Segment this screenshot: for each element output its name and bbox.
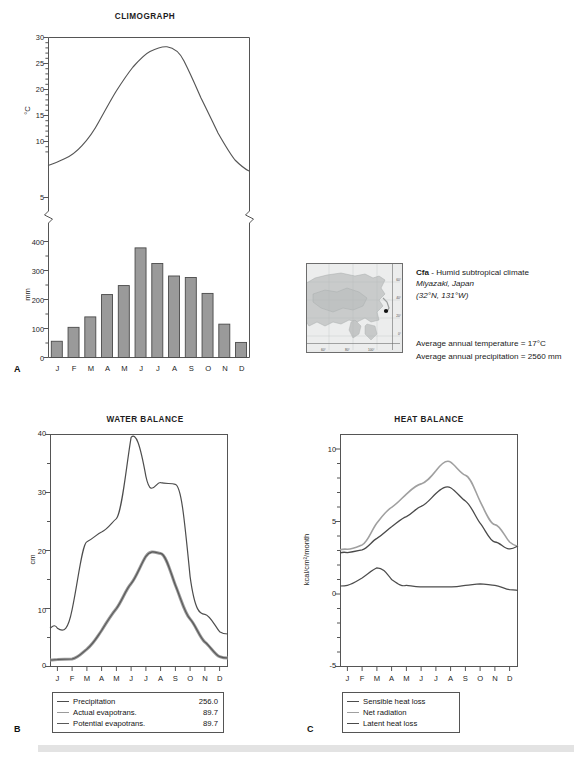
month-label-c-j1: J [340,674,355,683]
month-label-b-a1: A [94,674,109,683]
wb-tick-10: 10 [24,606,46,615]
map-lat-label-60: 60° [396,278,401,282]
sensible-heat-loss-curve [340,568,518,591]
bar-may [118,286,129,358]
month-label-b-o: O [183,674,198,683]
water-balance-plot [50,434,228,672]
bar-dec [236,342,247,357]
panel-heat-balance: HEAT BALANCE C kcal/cm²/month 10 5 0 -5 [290,400,584,757]
wb-tick-0: 0 [24,661,46,670]
panel-letter-a: A [14,364,21,374]
panel-water-balance: WATER BALANCE B cm 40 30 20 10 0 [0,400,300,757]
legend-row-net-radiation: Net radiation [347,707,454,718]
month-label-c-n: N [488,674,503,683]
climate-code: Cfa [416,268,429,277]
month-label-a-s: S [183,364,200,373]
month-label-c-a1: A [384,674,399,683]
map-lat-label-40: 40° [396,296,401,300]
map-lon-label-60: 60° [321,348,326,352]
bar-jul [152,264,163,358]
legend-row-potential-evapotrans: Potential evapotrans. 89.7 [57,718,218,729]
legend-value-precipitation: 256.0 [199,697,218,706]
month-label-b-a2: A [153,674,168,683]
climate-averages: Average annual temperature = 17°C Averag… [416,337,561,363]
month-label-a-j2: J [133,364,150,373]
climate-coordinates: (32°N, 131°W) [416,290,529,301]
month-label-c-m1: M [370,674,385,683]
month-label-b-j1: J [50,674,65,683]
climate-name: - Humid subtropical climate [431,268,529,277]
precipitation-curve [50,436,228,634]
legend-label-precipitation: Precipitation [73,697,199,706]
month-label-c-j3: J [429,674,444,683]
legend-value-potential-evapotrans: 89.7 [203,719,218,728]
precip-tick-200: 200 [20,296,44,305]
hb-tick-5: 5 [314,517,336,526]
wb-tick-40: 40 [24,429,46,438]
location-dot [384,309,388,313]
heat-balance-legend: Sensible heat loss Net radiation Latent … [342,692,460,733]
month-label-c-j2: J [414,674,429,683]
month-label-b-j3: J [139,674,154,683]
bar-jun [135,248,146,358]
hb-tick-10: 10 [314,445,336,454]
month-label-b-j2: J [124,674,139,683]
legend-row-precipitation: Precipitation 256.0 [57,696,218,707]
precip-tick-300: 300 [20,267,44,276]
month-label-b-m2: M [109,674,124,683]
legend-swatch-potential-evapotrans [57,723,69,724]
bar-feb [68,327,79,357]
month-label-b-s: S [168,674,183,683]
legend-swatch-net-radiation [347,712,359,713]
latent-heat-loss-curve [340,487,518,553]
footer-bar [38,745,574,752]
heat-balance-title: HEAT BALANCE [290,415,568,424]
temp-tick-10: 10 [22,137,44,146]
actual-evapotranspiration-curve [50,552,228,660]
bar-jan [51,341,62,357]
bar-apr [102,295,113,358]
temperature-plot [48,37,250,209]
month-label-a-j1: J [49,364,66,373]
bar-mar [85,317,96,358]
water-balance-title: WATER BALANCE [0,415,290,424]
legend-label-latent-heat-loss: Latent heat loss [363,719,454,728]
net-radiation-curve [340,461,518,550]
legend-label-sensible-heat-loss: Sensible heat loss [363,697,454,706]
month-label-a-f: F [66,364,83,373]
precipitation-bars [51,248,246,358]
temp-tick-25: 25 [22,59,44,68]
month-label-a-o: O [200,364,217,373]
month-label-c-d: D [502,674,517,683]
map-graphic [307,264,400,350]
hb-tick-0: 0 [314,589,336,598]
temp-tick-20: 20 [22,85,44,94]
climograph-title: CLIMOGRAPH [0,12,290,21]
legend-row-actual-evapotrans: Actual evapotrans. 89.7 [57,707,218,718]
legend-label-net-radiation: Net radiation [363,708,454,717]
map-lat-label-20: 20° [396,314,401,318]
wb-tick-30: 30 [24,488,46,497]
map-lat-label-0: 0° [398,332,401,336]
wb-tick-20: 20 [24,547,46,556]
month-label-c-f: F [355,674,370,683]
month-label-a-d: D [233,364,250,373]
legend-swatch-precipitation [57,701,69,702]
temp-tick-5: 5 [22,193,44,202]
axis-break-symbol [44,205,256,227]
hb-tick-minus5: -5 [310,661,336,670]
precip-tick-100: 100 [20,325,44,334]
month-label-a-m1: M [83,364,100,373]
month-label-c-m2: M [399,674,414,683]
heat-balance-axis-label: kcal/cm²/month [302,534,311,585]
climate-code-line: Cfa - Humid subtropical climate [416,267,529,278]
month-label-b-d: D [212,674,227,683]
month-label-c-o: O [473,674,488,683]
temp-tick-30: 30 [22,33,44,42]
precip-tick-400: 400 [20,238,44,247]
bar-oct [202,293,213,357]
bar-aug [169,276,180,358]
month-label-b-m1: M [80,674,95,683]
legend-swatch-latent-heat-loss [347,723,359,724]
location-map: 60° 40° 20° 0° 60° 80° 100° [306,263,403,353]
